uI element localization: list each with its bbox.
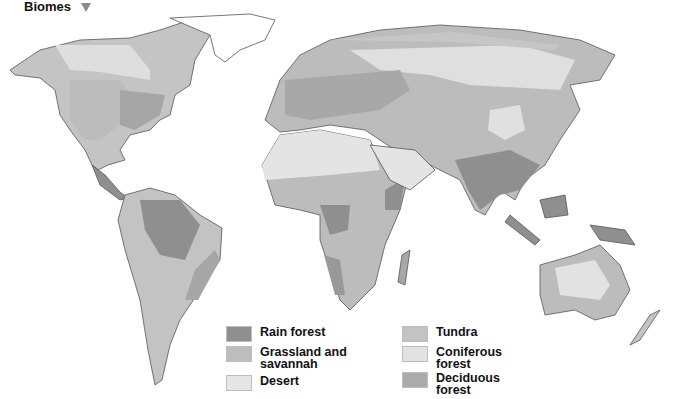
legend-item-rain-forest: Rain forest [226, 326, 325, 342]
legend-item-tundra: Tundra [402, 326, 477, 342]
legend-swatch [226, 375, 252, 391]
legend-swatch [402, 372, 428, 388]
legend-item-deciduous: Deciduousforest [402, 372, 500, 396]
legend-swatch [226, 346, 252, 362]
legend-item-desert: Desert [226, 375, 299, 391]
legend-swatch [226, 326, 252, 342]
legend-swatch [402, 346, 428, 362]
legend-swatch [402, 326, 428, 342]
world-biome-map [0, 0, 677, 399]
legend-item-coniferous: Coniferousforest [402, 346, 502, 370]
legend-item-grassland: Grassland andsavannah [226, 346, 347, 370]
